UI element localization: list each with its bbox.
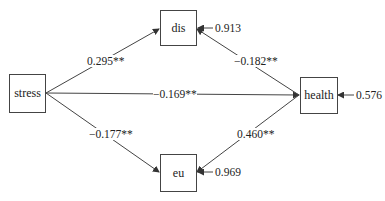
node-health: health — [300, 77, 338, 114]
node-health-label: health — [304, 88, 333, 103]
error-eu: 0.969 — [215, 166, 241, 178]
node-stress-label: stress — [14, 86, 41, 101]
node-stress: stress — [9, 74, 46, 113]
coef-health-eu: 0.460** — [237, 128, 274, 140]
coef-stress-dis: 0.295** — [87, 55, 124, 67]
node-dis: dis — [160, 10, 197, 46]
node-eu: eu — [160, 154, 197, 192]
error-health: 0.576 — [356, 89, 382, 101]
node-eu-label: eu — [173, 166, 184, 181]
node-dis-label: dis — [171, 21, 185, 36]
coef-health-dis: −0.182** — [234, 55, 278, 67]
coef-stress-health: −0.169** — [153, 88, 197, 100]
error-dis: 0.913 — [215, 22, 241, 34]
coef-stress-eu: −0.177** — [89, 128, 133, 140]
